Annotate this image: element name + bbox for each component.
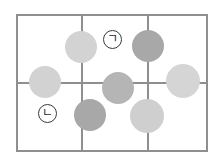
shaded-circle (130, 99, 164, 133)
shaded-circle (132, 30, 164, 62)
cell-label-giyeok: ㄱ (103, 30, 122, 49)
shaded-circle (65, 31, 97, 63)
shaded-circle (74, 99, 106, 131)
diagram-canvas: ㄱ ㄴ (0, 0, 221, 159)
cell-label-nieun: ㄴ (38, 104, 57, 123)
shaded-circle (29, 66, 61, 98)
shaded-circle (166, 64, 200, 98)
shaded-circle (102, 72, 134, 104)
